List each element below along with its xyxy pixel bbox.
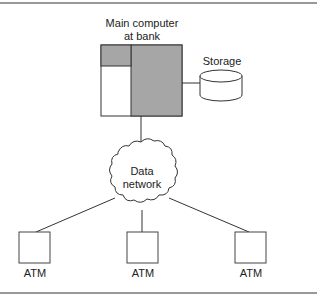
storage-cylinder-icon bbox=[200, 70, 242, 101]
main-computer-label-line2: at bank bbox=[101, 30, 183, 43]
atm-2-label: ATM bbox=[125, 267, 161, 280]
data-network-label-line1: Data bbox=[112, 165, 172, 178]
main-computer-label: Main computer at bank bbox=[101, 17, 183, 43]
atm-1-label: ATM bbox=[17, 267, 53, 280]
diagram-graphics bbox=[0, 0, 317, 300]
data-network-label: Data network bbox=[112, 165, 172, 191]
connector-network-atm1 bbox=[36, 198, 115, 232]
diagram-canvas: Main computer at bank Storage Data netwo… bbox=[0, 0, 317, 300]
atm-2-icon bbox=[127, 232, 158, 263]
atm-1-icon bbox=[19, 232, 50, 263]
connector-network-atm3 bbox=[169, 198, 249, 232]
atm-3-icon bbox=[235, 232, 266, 263]
storage-label: Storage bbox=[196, 55, 248, 68]
main-computer-icon bbox=[101, 45, 182, 116]
main-computer-label-line1: Main computer bbox=[101, 17, 183, 30]
data-network-label-line2: network bbox=[112, 178, 172, 191]
atm-3-label: ATM bbox=[233, 267, 269, 280]
